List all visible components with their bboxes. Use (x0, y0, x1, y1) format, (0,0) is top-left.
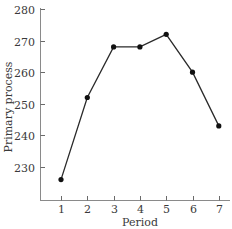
data-point-marker (216, 123, 221, 128)
x-tick-label: 6 (190, 203, 197, 216)
data-point-marker (164, 32, 169, 37)
x-tick-label: 7 (216, 203, 223, 216)
data-markers (58, 32, 221, 183)
y-tick-label: 240 (14, 130, 35, 143)
x-tick-label: 3 (111, 203, 118, 216)
x-axis-title: Period (122, 216, 158, 229)
y-axis: 230240250260270280 Primary process (2, 4, 45, 201)
y-tick-label: 250 (14, 99, 35, 112)
data-point-marker (111, 44, 116, 49)
x-tick-label: 5 (163, 203, 170, 216)
data-point-marker (58, 177, 63, 182)
x-axis: 1234567 Period (40, 196, 230, 229)
series-line (61, 34, 219, 179)
x-ticks: 1234567 (58, 196, 223, 216)
x-tick-label: 2 (84, 203, 91, 216)
y-tick-label: 230 (14, 162, 35, 175)
data-series (58, 32, 221, 183)
y-tick-label: 260 (14, 67, 35, 80)
data-point-marker (85, 95, 90, 100)
x-tick-label: 1 (58, 203, 65, 216)
y-tick-label: 280 (14, 4, 35, 17)
x-tick-label: 4 (137, 203, 144, 216)
data-point-marker (190, 70, 195, 75)
line-chart: 230240250260270280 Primary process 12345… (0, 0, 232, 229)
data-point-marker (137, 44, 142, 49)
y-axis-title: Primary process (2, 61, 15, 152)
y-tick-label: 270 (14, 36, 35, 49)
